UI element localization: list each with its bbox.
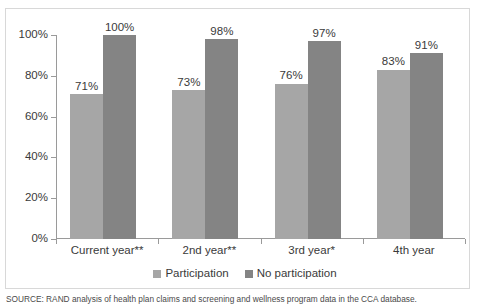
bar-no-participation[interactable]: 98%: [205, 39, 238, 239]
bar-value-label: 91%: [415, 40, 438, 52]
bar-group: 73%98%: [172, 35, 238, 239]
bar-no-participation[interactable]: 97%: [308, 41, 341, 239]
chart-frame: 0%20%40%60%80%100% 71%100%73%98%76%97%83…: [5, 8, 470, 289]
x-axis-tick: [261, 239, 262, 244]
y-axis-label: 80%: [25, 70, 48, 82]
category-label: 3rd year*: [288, 245, 335, 257]
bar-value-label: 97%: [313, 28, 336, 40]
bar-group: 71%100%: [70, 35, 136, 239]
bar-participation[interactable]: 83%: [377, 70, 410, 239]
bar-participation[interactable]: 71%: [70, 94, 103, 239]
y-axis-tick: [51, 198, 56, 199]
category-label: 2nd year**: [183, 245, 237, 257]
bar-participation[interactable]: 73%: [172, 90, 205, 239]
y-axis-label: 100%: [19, 29, 48, 41]
plot-area: 0%20%40%60%80%100% 71%100%73%98%76%97%83…: [56, 35, 465, 239]
bar-value-label: 73%: [177, 77, 200, 89]
bar-no-participation[interactable]: 100%: [103, 35, 136, 239]
y-axis-tick: [51, 76, 56, 77]
bar-value-label: 100%: [105, 22, 134, 34]
y-axis-tick: [51, 157, 56, 158]
chart-figure: 0%20%40%60%80%100% 71%100%73%98%76%97%83…: [0, 0, 478, 305]
y-axis-tick: [51, 117, 56, 118]
y-axis-label: 60%: [25, 111, 48, 123]
chart-legend: Participation No participation: [6, 268, 478, 280]
bar-participation[interactable]: 76%: [275, 84, 308, 239]
y-axis-label: 20%: [25, 192, 48, 204]
category-label: Current year**: [71, 245, 144, 257]
source-note: SOURCE: RAND analysis of health plan cla…: [6, 294, 478, 304]
legend-swatch-icon: [245, 270, 253, 278]
legend-swatch-icon: [153, 270, 161, 278]
bar-group: 83%91%: [377, 35, 443, 239]
legend-item-no-participation: No participation: [245, 268, 337, 280]
bar-value-label: 98%: [210, 26, 233, 38]
legend-label: Participation: [165, 268, 228, 280]
bar-group: 76%97%: [275, 35, 341, 239]
y-axis-line: [56, 35, 57, 239]
y-axis-label: 40%: [25, 152, 48, 164]
x-axis-tick: [158, 239, 159, 244]
y-axis-tick: [51, 35, 56, 36]
y-axis-label: 0%: [31, 233, 48, 245]
bar-value-label: 83%: [382, 56, 405, 68]
legend-item-participation: Participation: [153, 268, 228, 280]
bar-value-label: 76%: [280, 70, 303, 82]
x-axis-tick: [363, 239, 364, 244]
legend-label: No participation: [257, 268, 337, 280]
bar-no-participation[interactable]: 91%: [410, 53, 443, 239]
category-label: 4th year: [393, 245, 435, 257]
x-axis-tick: [465, 239, 466, 244]
bar-value-label: 71%: [75, 81, 98, 93]
x-axis-tick: [56, 239, 57, 244]
